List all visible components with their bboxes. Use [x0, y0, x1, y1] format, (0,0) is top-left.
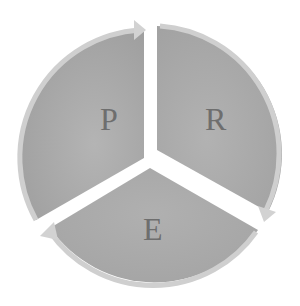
segment-label-e: E: [143, 211, 163, 247]
segment-label-p: P: [100, 101, 118, 137]
cycle-diagram: P R E: [0, 0, 300, 306]
arrow-head-icon: [40, 222, 58, 240]
segment-label-r: R: [205, 101, 227, 137]
